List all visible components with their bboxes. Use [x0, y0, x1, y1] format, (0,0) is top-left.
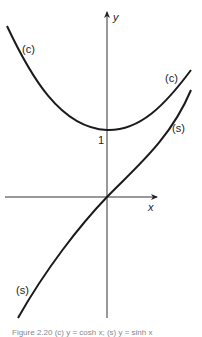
curve-s-label-right: (s) — [172, 122, 185, 134]
curve-c — [7, 26, 191, 130]
x-axis-label: x — [147, 201, 154, 213]
curve-s — [18, 90, 191, 318]
curve-c-label-left: (c) — [22, 43, 35, 55]
curve-c-label-right: (c) — [165, 72, 178, 84]
curve-s-label-left: (s) — [16, 284, 29, 296]
y-intercept-label: 1 — [98, 134, 104, 146]
y-axis-label: y — [112, 11, 120, 23]
figure-caption: Figure 2.20 (c) y = cosh x; (s) y = sinh… — [12, 328, 202, 337]
